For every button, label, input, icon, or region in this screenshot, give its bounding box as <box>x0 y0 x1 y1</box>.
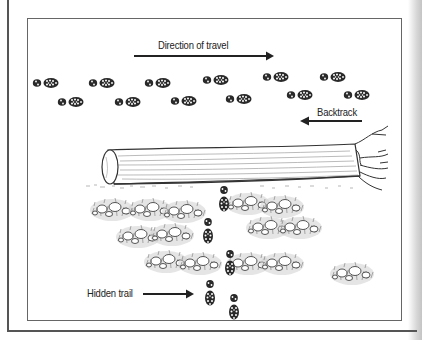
direction-of-travel-label: Direction of travel <box>158 39 228 51</box>
fallen-log <box>102 126 388 190</box>
tracking-illustration <box>0 0 422 340</box>
hidden-trail-arrow <box>143 290 194 299</box>
upper-tracks <box>33 72 370 107</box>
hidden-trail-label: Hidden trail <box>87 287 133 299</box>
ground-line <box>86 185 353 188</box>
direction-arrow <box>134 52 274 61</box>
backtrack-label: Backtrack <box>317 106 357 118</box>
